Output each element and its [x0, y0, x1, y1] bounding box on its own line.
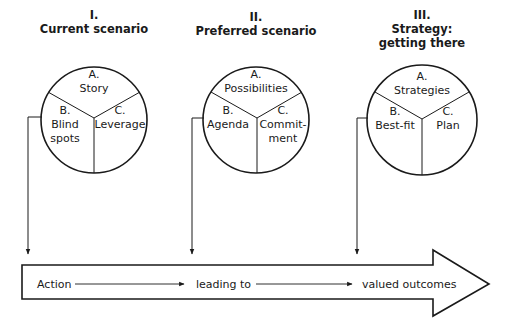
- stage-title-1: Strategy:: [392, 22, 453, 36]
- segment-b-letter: B.: [222, 104, 233, 117]
- stage-numeral: II.: [250, 10, 263, 24]
- segment-c-letter: C.: [442, 105, 453, 118]
- segment-c-label-1: Commit-: [259, 118, 306, 131]
- connector-line-preferred: [192, 118, 204, 254]
- segment-b-label: Agenda: [207, 118, 249, 131]
- stage-numeral: III.: [413, 8, 430, 22]
- flow-step-leading-to: leading to: [196, 278, 251, 291]
- segment-a-label: Story: [79, 82, 109, 95]
- segment-b-label-2: spots: [50, 132, 80, 145]
- stage-strategy: III. Strategy: getting there A. Strategi…: [357, 8, 477, 254]
- segment-c-letter: C.: [277, 104, 288, 117]
- action-flow-arrow: Action leading to valued outcomes: [22, 250, 489, 316]
- segment-a-label: Possibilities: [224, 82, 288, 95]
- segment-b-letter: B.: [389, 105, 400, 118]
- segment-a-label: Strategies: [394, 84, 450, 97]
- stage-title: Preferred scenario: [195, 24, 316, 38]
- stage-current-scenario: I. Current scenario A. Story B. Blind sp…: [28, 8, 148, 254]
- segment-a-letter: A.: [417, 70, 428, 83]
- stage-numeral: I.: [90, 8, 99, 22]
- segment-b-label: Best-fit: [375, 119, 415, 132]
- stage-title: Current scenario: [40, 22, 148, 36]
- segment-c-label: Leverage: [95, 118, 146, 131]
- connector-line-strategy: [357, 118, 368, 254]
- segment-c-label-2: ment: [269, 132, 298, 145]
- flow-step-action: Action: [37, 278, 71, 291]
- helping-model-diagram: I. Current scenario A. Story B. Blind sp…: [0, 0, 508, 331]
- segment-c-letter: C.: [114, 104, 125, 117]
- segment-a-letter: A.: [89, 68, 100, 81]
- stage-preferred-scenario: II. Preferred scenario A. Possibilities …: [192, 10, 317, 254]
- segment-b-letter: B.: [59, 104, 70, 117]
- connector-line-current: [28, 117, 42, 254]
- segment-a-letter: A.: [251, 68, 262, 81]
- segment-b-label-1: Blind: [51, 118, 79, 131]
- flow-step-valued-outcomes: valued outcomes: [362, 278, 457, 291]
- stage-title-2: getting there: [379, 36, 466, 50]
- segment-c-label: Plan: [436, 119, 459, 132]
